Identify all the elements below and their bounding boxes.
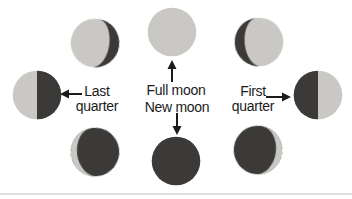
- waning-crescent-moon-icon: [65, 122, 125, 182]
- arrow-down-icon: [171, 112, 183, 135]
- first-quarter-moon-icon: [291, 68, 345, 122]
- last-quarter-label-line1: Last: [57, 84, 137, 99]
- last-quarter-label: Last quarter: [57, 84, 137, 114]
- first-quarter-label: First quarter: [213, 84, 293, 114]
- first-quarter-label-line1: First: [213, 84, 293, 99]
- moon-phase-cycle-figure: Full moon New moon Last quarter First qu…: [0, 0, 352, 199]
- full-moon-icon: [145, 5, 199, 59]
- waning-gibbous-moon-icon: [65, 13, 126, 74]
- arrow-up-icon: [166, 60, 178, 83]
- new-moon-icon: [149, 134, 203, 188]
- waxing-gibbous-moon-icon: [230, 13, 289, 72]
- first-quarter-label-line2: quarter: [213, 99, 293, 114]
- last-quarter-moon-icon: [10, 68, 64, 122]
- last-quarter-label-line2: quarter: [57, 99, 137, 114]
- waxing-crescent-moon-icon: [228, 120, 288, 180]
- figure-bottom-rule: [0, 193, 352, 195]
